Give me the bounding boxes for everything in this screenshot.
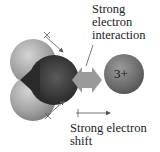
label-leader-line	[86, 45, 93, 66]
ion-charge-label: 3+	[114, 66, 128, 82]
label-line: shift	[70, 135, 147, 148]
label-strong-electron-interaction: Strong electron interaction	[92, 3, 145, 42]
label-line: interaction	[92, 29, 145, 42]
label-strong-electron-shift: Strong electron shift	[70, 122, 147, 148]
electron-shift-arrow-horizontal	[76, 109, 110, 117]
